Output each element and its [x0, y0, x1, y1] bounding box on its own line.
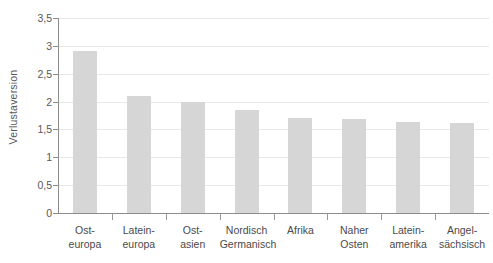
x-axis-category-label-line: Latein- [381, 224, 435, 238]
y-axis-tick-mark [53, 18, 59, 19]
x-axis-category-label: Latein-amerika [381, 224, 435, 251]
x-axis-tick-mark [220, 214, 221, 220]
x-axis-category-label-line: Nordisch [220, 224, 274, 238]
x-axis-category-label-line: Osten [327, 238, 381, 252]
bar [288, 118, 312, 213]
y-axis-tick-mark [53, 129, 59, 130]
y-axis-tick-mark [53, 213, 59, 214]
y-axis-title: Verlustaversion [0, 0, 26, 213]
y-axis-tick-label: 3 [46, 40, 52, 52]
x-axis-tick-mark [381, 214, 382, 220]
x-axis-category-label: Afrika [274, 224, 328, 238]
bar [127, 96, 151, 213]
y-axis-tick-label: 1 [46, 151, 52, 163]
y-axis-tick-label: 3,5 [37, 12, 52, 24]
x-axis-category-label: Latein-europa [112, 224, 166, 251]
y-axis-title-text: Verlustaversion [7, 69, 19, 144]
x-axis-category-label-line: asien [166, 238, 220, 252]
x-axis-category-label-line: amerika [381, 238, 435, 252]
x-axis-category-label: Angel-sächsisch [435, 224, 489, 251]
x-axis-category-label: Ost-europa [58, 224, 112, 251]
y-axis-tick-mark [53, 46, 59, 47]
bar [396, 122, 420, 213]
y-axis-tick-label: 0 [46, 207, 52, 219]
y-axis-tick-labels: 00,511,522,533,5 [26, 0, 56, 225]
x-axis-category-label-line: Naher [327, 224, 381, 238]
x-axis-category-label-line: Ost- [166, 224, 220, 238]
x-axis-category-label-line: Angel- [435, 224, 489, 238]
bars-layer [58, 18, 489, 213]
x-axis-category-label: NaherOsten [327, 224, 381, 251]
y-axis-tick-label: 2 [46, 96, 52, 108]
y-axis-tick-label: 1,5 [37, 123, 52, 135]
y-axis-tick-label: 0,5 [37, 179, 52, 191]
bar [342, 119, 366, 213]
y-axis-tick-mark [53, 102, 59, 103]
x-axis-category-label-line: Afrika [274, 224, 328, 238]
x-axis-category-label-line: Germanisch [220, 238, 274, 252]
x-axis-tick-mark [327, 214, 328, 220]
x-axis-tick-mark [274, 214, 275, 220]
x-axis-category-label: NordischGermanisch [220, 224, 274, 251]
y-axis-tick-mark [53, 74, 59, 75]
x-axis-tick-mark [435, 214, 436, 220]
bar-chart: Verlustaversion 00,511,522,533,5 Ost-eur… [0, 0, 493, 263]
bar [73, 51, 97, 213]
y-axis-tick-label: 2,5 [37, 68, 52, 80]
x-axis-category-label-line: Latein- [112, 224, 166, 238]
y-axis-tick-mark [53, 185, 59, 186]
x-axis-category-label-line: sächsisch [435, 238, 489, 252]
bar [181, 102, 205, 213]
y-axis-tick-mark [53, 157, 59, 158]
x-axis-tick-mark [166, 214, 167, 220]
bar [235, 110, 259, 213]
x-axis-category-label-line: Ost- [58, 224, 112, 238]
x-axis-category-label-line: europa [58, 238, 112, 252]
bar [450, 123, 474, 213]
x-axis-category-label-line: europa [112, 238, 166, 252]
x-axis-category-label: Ost-asien [166, 224, 220, 251]
x-axis-tick-mark [112, 214, 113, 220]
x-axis-category-labels: Ost-europaLatein-europaOst-asienNordisch… [58, 224, 489, 262]
